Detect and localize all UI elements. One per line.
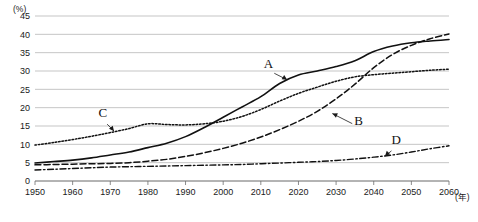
x-tick-label-1950: 1950	[25, 187, 45, 197]
chart-container: 051015202530354045 195019601970198019902…	[0, 0, 478, 222]
x-tick-label-2000: 2000	[213, 187, 233, 197]
x-axis-tick-labels: 1950196019701980199020002010202020302040…	[25, 187, 459, 197]
y-tick-label-0: 0	[25, 176, 30, 186]
x-tick-label-2040: 2040	[364, 187, 384, 197]
series-line-B	[35, 34, 449, 165]
x-tick-label-1980: 1980	[138, 187, 158, 197]
y-tick-label-20: 20	[20, 103, 30, 113]
y-axis-unit-label: (%)	[13, 4, 26, 14]
y-axis-tick-labels: 051015202530354045	[20, 11, 30, 186]
series-label-B: B	[354, 113, 363, 128]
x-tick-label-2020: 2020	[288, 187, 308, 197]
y-tick-label-15: 15	[20, 121, 30, 131]
x-axis	[35, 181, 449, 185]
x-tick-label-1970: 1970	[100, 187, 120, 197]
y-tick-label-10: 10	[20, 140, 30, 150]
y-tick-label-25: 25	[20, 85, 30, 95]
x-tick-label-2010: 2010	[251, 187, 271, 197]
x-tick-label-2050: 2050	[401, 187, 421, 197]
series-lines	[35, 34, 449, 170]
line-chart: 051015202530354045 195019601970198019902…	[0, 0, 478, 222]
series-label-D: D	[392, 132, 401, 147]
y-tick-label-30: 30	[20, 66, 30, 76]
x-tick-label-1960: 1960	[63, 187, 83, 197]
y-tick-label-35: 35	[20, 48, 30, 58]
x-tick-label-2030: 2030	[326, 187, 346, 197]
x-axis-unit-label: (年)	[455, 192, 470, 202]
series-line-D	[35, 146, 449, 170]
y-tick-label-40: 40	[20, 30, 30, 40]
x-tick-label-1990: 1990	[176, 187, 196, 197]
y-tick-label-5: 5	[25, 158, 30, 168]
series-label-A: A	[264, 56, 274, 71]
series-label-C: C	[98, 105, 107, 120]
